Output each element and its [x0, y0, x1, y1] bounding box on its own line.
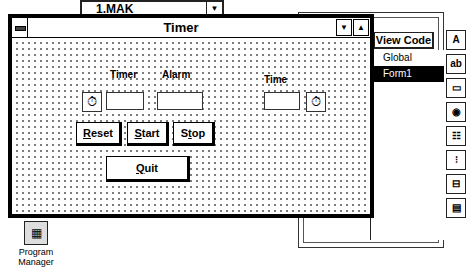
quit-accel: Q — [136, 162, 145, 174]
system-menu-icon[interactable] — [12, 18, 28, 37]
program-manager-icon: ▦ — [24, 221, 48, 245]
timer-textbox[interactable] — [106, 92, 144, 110]
timer-label[interactable]: Timer — [110, 69, 137, 80]
timer-form-window[interactable]: Timer ▼ ▲ Timer Alarm Time ⏱ ⏱ Reset Sta… — [8, 14, 374, 218]
time-label[interactable]: Time — [264, 74, 287, 85]
reset-button[interactable]: Reset — [76, 122, 122, 146]
stopwatch-timer-icon-2[interactable]: ⏱ — [306, 92, 326, 112]
stop-pre: S — [181, 127, 188, 139]
alarm-textbox[interactable] — [157, 92, 203, 110]
start-rest: tart — [142, 127, 160, 139]
stop-rest: op — [192, 127, 205, 139]
alarm-label[interactable]: Alarm — [162, 69, 190, 80]
program-manager-desktop-icon[interactable]: ▦ Program Manager — [4, 221, 68, 267]
start-button[interactable]: Start — [127, 122, 169, 146]
quit-rest: uit — [145, 162, 158, 174]
vscroll-tool-icon[interactable]: ⁝ — [446, 150, 466, 170]
maximize-button[interactable]: ▲ — [353, 19, 369, 36]
file-list-tool-icon[interactable]: ▤ — [446, 198, 466, 218]
stopwatch-timer-icon[interactable]: ⏱ — [82, 92, 102, 112]
time-textbox[interactable] — [264, 92, 300, 110]
textbox-tool-icon[interactable]: ab — [446, 54, 466, 74]
hscroll-tool-icon[interactable]: ⊟ — [446, 174, 466, 194]
reset-accel: R — [83, 127, 91, 139]
minimize-button[interactable]: ▼ — [336, 19, 352, 36]
quit-button[interactable]: Quit — [106, 156, 190, 182]
label-tool-icon[interactable]: A — [446, 30, 466, 50]
form-design-grid[interactable]: Timer Alarm Time ⏱ ⏱ Reset Start Stop Qu… — [12, 38, 370, 214]
toolbox: A ab ▭ ◉ ☷ ⁝ ⊟ ▤ — [444, 30, 468, 222]
list-item-form1[interactable]: Form1 — [371, 66, 444, 82]
start-accel: S — [134, 127, 141, 139]
stop-button[interactable]: Stop — [173, 122, 215, 146]
program-manager-label: Program Manager — [4, 247, 68, 267]
project-file-list[interactable]: Global Form1 — [370, 50, 444, 240]
view-code-button[interactable]: View Code — [374, 32, 434, 49]
window-title: Timer — [28, 18, 334, 37]
command-button-tool-icon[interactable]: ▭ — [446, 78, 466, 98]
reset-rest: eset — [91, 127, 113, 139]
list-item-global[interactable]: Global — [371, 50, 444, 66]
list-box-tool-icon[interactable]: ☷ — [446, 126, 466, 146]
option-button-tool-icon[interactable]: ◉ — [446, 102, 466, 122]
title-bar[interactable]: Timer ▼ ▲ — [12, 18, 370, 38]
